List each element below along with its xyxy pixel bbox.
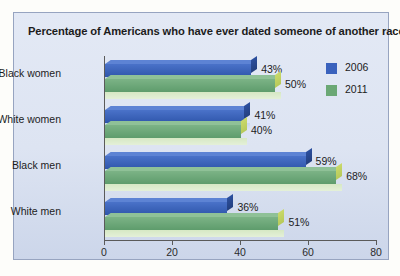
category-label: White women bbox=[0, 113, 61, 125]
legend-swatch-icon bbox=[326, 63, 337, 74]
x-tick-label: 20 bbox=[166, 246, 178, 258]
bar-value-label: 40% bbox=[251, 124, 272, 136]
x-tick-label: 80 bbox=[370, 246, 382, 258]
x-tick-label: 0 bbox=[101, 246, 107, 258]
x-tick-label: 40 bbox=[234, 246, 246, 258]
bar-2011-black-men bbox=[105, 171, 336, 184]
bar-side-face bbox=[227, 194, 233, 211]
bar-top-face bbox=[105, 167, 342, 171]
legend-label: 2011 bbox=[345, 83, 368, 95]
bar-2011-white-women bbox=[105, 125, 241, 138]
bar-top-face bbox=[105, 198, 233, 202]
chart-page: Percentage of Americans who have ever da… bbox=[0, 0, 400, 276]
bar-value-label: 68% bbox=[346, 170, 367, 182]
bar-front-face bbox=[105, 217, 278, 230]
bar-value-label: 59% bbox=[316, 155, 337, 167]
bar-2011-white-men bbox=[105, 217, 278, 230]
bar-front-face bbox=[105, 171, 336, 184]
category-label: White men bbox=[11, 205, 61, 217]
bar-top-face bbox=[105, 121, 247, 125]
x-tick-mark bbox=[308, 241, 309, 245]
legend-label: 2006 bbox=[345, 61, 368, 73]
bar-side-face bbox=[251, 56, 257, 73]
x-tick-mark bbox=[172, 241, 173, 245]
bar-top-face bbox=[105, 106, 250, 110]
bar-value-label: 41% bbox=[254, 109, 275, 121]
bar-2011-black-women bbox=[105, 79, 275, 92]
bar-base-slab bbox=[105, 184, 342, 191]
x-tick-mark bbox=[240, 241, 241, 245]
bar-side-face bbox=[241, 117, 247, 134]
bar-front-face bbox=[105, 125, 241, 138]
x-tick-mark bbox=[376, 241, 377, 245]
bar-value-label: 36% bbox=[237, 201, 258, 213]
bar-top-face bbox=[105, 60, 257, 64]
category-label: Black men bbox=[12, 159, 61, 171]
legend-swatch-icon bbox=[326, 85, 337, 96]
legend-item[interactable]: 2006 bbox=[326, 60, 392, 82]
bar-top-face bbox=[105, 152, 311, 156]
bar-value-label: 51% bbox=[288, 216, 309, 228]
bar-base-slab bbox=[105, 230, 284, 237]
bar-side-face bbox=[278, 209, 284, 226]
bar-base-slab bbox=[105, 138, 247, 145]
bar-side-face bbox=[244, 102, 250, 119]
bar-top-face bbox=[105, 213, 284, 217]
category-label: Black women bbox=[0, 67, 61, 79]
legend-item[interactable]: 2011 bbox=[326, 82, 392, 104]
bar-base-slab bbox=[105, 92, 281, 99]
x-tick-mark bbox=[104, 241, 105, 245]
chart-title: Percentage of Americans who have ever da… bbox=[28, 25, 380, 38]
chart-frame: Percentage of Americans who have ever da… bbox=[13, 12, 389, 260]
bar-side-face bbox=[336, 163, 342, 180]
bar-front-face bbox=[105, 79, 275, 92]
chart-legend: 20062011 bbox=[326, 60, 392, 104]
bar-side-face bbox=[275, 71, 281, 88]
bar-side-face bbox=[306, 148, 312, 165]
bar-value-label: 50% bbox=[285, 78, 306, 90]
x-tick-label: 60 bbox=[302, 246, 314, 258]
bar-top-face bbox=[105, 75, 281, 79]
